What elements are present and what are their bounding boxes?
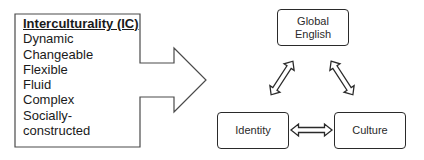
node-culture: Culture	[334, 112, 406, 149]
double-arrow-global-culture-icon	[326, 58, 358, 98]
double-arrow-identity-global-icon	[266, 58, 298, 98]
node-global-english-label: Global English	[295, 15, 331, 41]
double-arrow-identity-culture-icon	[291, 124, 332, 136]
node-identity-label: Identity	[235, 124, 270, 137]
ic-item-flexible: Flexible	[23, 62, 139, 77]
diagram-canvas: Interculturality (IC) Dynamic Changeable…	[0, 0, 424, 160]
ic-item-constructed: constructed	[23, 123, 139, 138]
interculturality-list: Interculturality (IC) Dynamic Changeable…	[23, 16, 139, 138]
ic-item-socially: Socially-	[23, 108, 139, 123]
node-culture-label: Culture	[352, 124, 387, 137]
ic-item-fluid: Fluid	[23, 77, 139, 92]
ic-item-changeable: Changeable	[23, 47, 139, 62]
node-global-english: Global English	[277, 9, 349, 46]
node-identity: Identity	[217, 112, 289, 149]
ic-item-complex: Complex	[23, 92, 139, 107]
ic-item-dynamic: Dynamic	[23, 31, 139, 46]
interculturality-title: Interculturality (IC)	[23, 16, 139, 31]
